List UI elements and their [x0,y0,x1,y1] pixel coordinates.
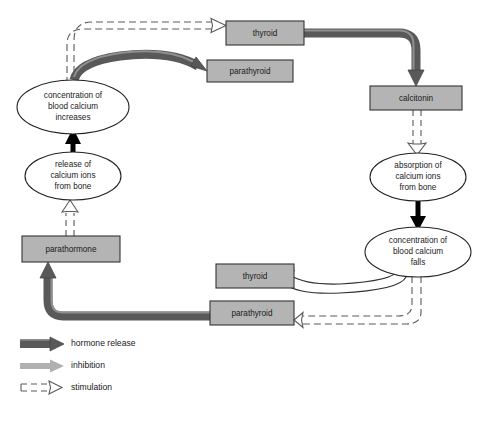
inhibition-arrow-icon [20,360,64,373]
legend-item-inhibition: inhibition [20,360,105,373]
legend-label-stimulation: stimulation [71,382,112,392]
stimulation-arrow-icon [21,381,62,394]
legend-item-hormone-release: hormone release [20,337,136,351]
legend-item-stimulation: stimulation [21,381,112,394]
legend-label-inhibition: inhibition [71,360,105,370]
legend-label-hormone-release: hormone release [71,338,136,348]
legend: hormone release inhibition stimulation [0,0,481,421]
diagram-canvas: thyroid parathyroid calcitonin parathorm… [0,0,481,421]
hormone-release-arrow-icon [20,337,64,351]
